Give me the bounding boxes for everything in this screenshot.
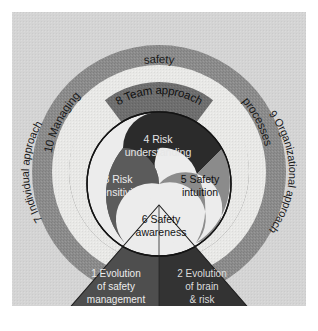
svg-text:& risk: & risk (190, 294, 216, 305)
svg-text:sensitivity: sensitivity (95, 186, 141, 198)
figure-root: 10 Managing safety processes 8 Team appr… (0, 0, 318, 331)
label-safety-awareness: 6 Safety awareness (136, 213, 187, 238)
svg-text:intuition: intuition (182, 186, 218, 198)
svg-text:of safety: of safety (97, 281, 135, 292)
svg-text:2 Evolution: 2 Evolution (177, 268, 226, 279)
svg-text:6 Safety: 6 Safety (142, 213, 181, 225)
svg-text:1 Evolution: 1 Evolution (91, 268, 140, 279)
svg-text:understanding: understanding (125, 146, 192, 158)
safety-model-diagram: 10 Managing safety processes 8 Team appr… (0, 0, 318, 331)
svg-text:5 Safety: 5 Safety (181, 173, 220, 185)
svg-text:of brain: of brain (185, 281, 218, 292)
svg-text:4 Risk: 4 Risk (143, 133, 173, 145)
svg-text:awareness: awareness (136, 226, 187, 238)
svg-text:management: management (87, 294, 146, 305)
label-safety-intuition: 5 Safety intuition (181, 173, 220, 198)
label-outer-ring-top: safety (143, 53, 175, 66)
svg-text:3 Risk: 3 Risk (103, 173, 133, 185)
